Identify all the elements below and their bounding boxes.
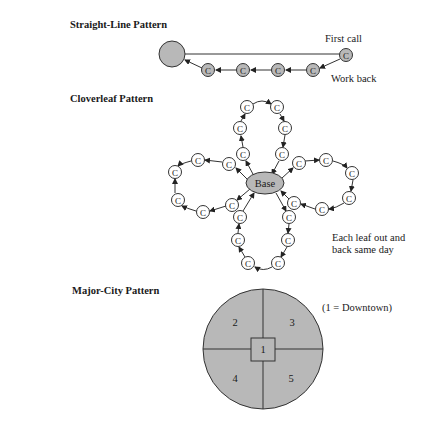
downtown-legend: (1 = Downtown): [322, 302, 393, 314]
zone-2-label: 2: [232, 317, 237, 328]
svg-text:C: C: [296, 159, 302, 169]
cloverleaf-note-line2: back same day: [332, 244, 395, 255]
major-city-diagram: 1 2 3 4 5 (1 = Downtown): [203, 289, 393, 409]
call-node: C: [340, 49, 353, 62]
sales-route-patterns-diagram: Straight-Line Pattern First call Work ba…: [0, 0, 439, 442]
call-node: C: [288, 197, 301, 210]
svg-text:C: C: [240, 66, 246, 76]
call-node: C: [271, 101, 284, 114]
svg-text:C: C: [310, 66, 316, 76]
call-node: C: [169, 166, 182, 179]
call-node: C: [232, 234, 245, 247]
svg-text:C: C: [343, 51, 349, 61]
call-node: C: [307, 64, 320, 77]
base-circle: [159, 41, 185, 67]
call-node: C: [283, 211, 296, 224]
svg-text:C: C: [323, 156, 329, 166]
cloverleaf-title: Cloverleaf Pattern: [70, 93, 153, 104]
svg-text:C: C: [244, 103, 250, 113]
svg-text:C: C: [205, 66, 211, 76]
call-node: C: [346, 167, 359, 180]
first-call-label: First call: [325, 33, 362, 44]
svg-text:C: C: [275, 66, 281, 76]
call-node: C: [197, 206, 210, 219]
call-node: C: [272, 64, 285, 77]
cloverleaf-note-line1: Each leaf out and: [332, 232, 406, 243]
call-node: C: [242, 257, 255, 270]
svg-text:C: C: [240, 150, 246, 160]
svg-text:C: C: [279, 150, 285, 160]
major-city-title: Major-City Pattern: [72, 285, 160, 296]
svg-text:C: C: [349, 169, 355, 179]
call-node: C: [241, 101, 254, 114]
zone-5-label: 5: [288, 373, 293, 384]
call-node: C: [276, 148, 289, 161]
svg-text:C: C: [285, 236, 291, 246]
call-node: C: [234, 211, 247, 224]
svg-text:C: C: [319, 205, 325, 215]
call-node: C: [282, 234, 295, 247]
call-node: C: [272, 257, 285, 270]
svg-text:C: C: [274, 103, 280, 113]
zone-3-label: 3: [289, 317, 294, 328]
call-node: C: [172, 194, 185, 207]
zone-4-label: 4: [232, 373, 238, 384]
call-node: C: [226, 199, 239, 212]
call-node: C: [320, 154, 333, 167]
call-node: C: [343, 192, 356, 205]
call-node: C: [316, 203, 329, 216]
work-back-label: Work back: [331, 73, 377, 84]
svg-text:C: C: [286, 213, 292, 223]
call-node: C: [293, 157, 306, 170]
call-node: C: [192, 154, 205, 167]
svg-text:C: C: [175, 196, 181, 206]
svg-text:C: C: [275, 259, 281, 269]
svg-text:C: C: [245, 259, 251, 269]
svg-text:C: C: [237, 213, 243, 223]
call-node: C: [223, 158, 236, 171]
svg-text:C: C: [291, 199, 297, 209]
svg-text:C: C: [237, 124, 243, 134]
call-node: C: [234, 122, 247, 135]
cloverleaf-diagram: Base C C C C C C C C C C C C C C C C C C…: [169, 101, 406, 270]
svg-text:C: C: [229, 201, 235, 211]
straight-line-title: Straight-Line Pattern: [70, 19, 167, 30]
svg-text:C: C: [282, 124, 288, 134]
svg-text:C: C: [200, 208, 206, 218]
call-node: C: [237, 148, 250, 161]
svg-text:C: C: [226, 160, 232, 170]
svg-text:C: C: [346, 194, 352, 204]
straight-line-diagram: First call Work back C C C C C: [159, 33, 377, 84]
svg-text:C: C: [235, 236, 241, 246]
zone-1-label: 1: [260, 344, 265, 355]
base-label: Base: [255, 178, 276, 189]
svg-text:C: C: [172, 168, 178, 178]
call-node: C: [237, 64, 250, 77]
svg-text:C: C: [195, 156, 201, 166]
call-node: C: [279, 122, 292, 135]
call-node: C: [202, 64, 215, 77]
